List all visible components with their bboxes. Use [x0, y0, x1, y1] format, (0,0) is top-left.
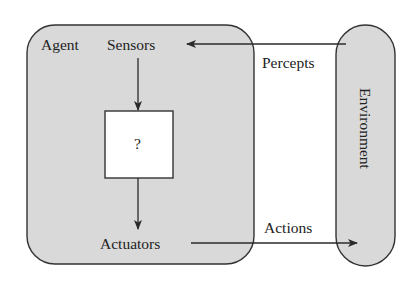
agent-label: Agent [41, 36, 80, 53]
environment-label: Environment [357, 88, 374, 170]
actuators-label: Actuators [100, 235, 160, 252]
sensors-label: Sensors [107, 36, 155, 53]
agent-environment-diagram: Agent Sensors ? Actuators Percepts Actio… [0, 0, 419, 281]
function-box-label: ? [134, 135, 141, 152]
actions-label: Actions [264, 219, 312, 236]
percepts-label: Percepts [262, 54, 315, 71]
